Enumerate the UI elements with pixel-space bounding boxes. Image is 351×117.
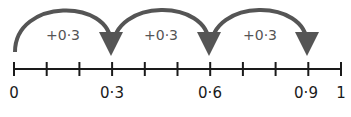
- jump-label-1: +0·3: [46, 27, 80, 43]
- tick-label-0-9: 0·9: [294, 84, 318, 102]
- tick-label-0: 0: [9, 84, 19, 102]
- tick-label-0-3: 0·3: [100, 84, 124, 102]
- tick-label-0-6: 0·6: [198, 84, 222, 102]
- jump-label-2: +0·3: [144, 27, 178, 43]
- tick-label-1: 1: [336, 84, 346, 102]
- jump-label-3: +0·3: [243, 27, 277, 43]
